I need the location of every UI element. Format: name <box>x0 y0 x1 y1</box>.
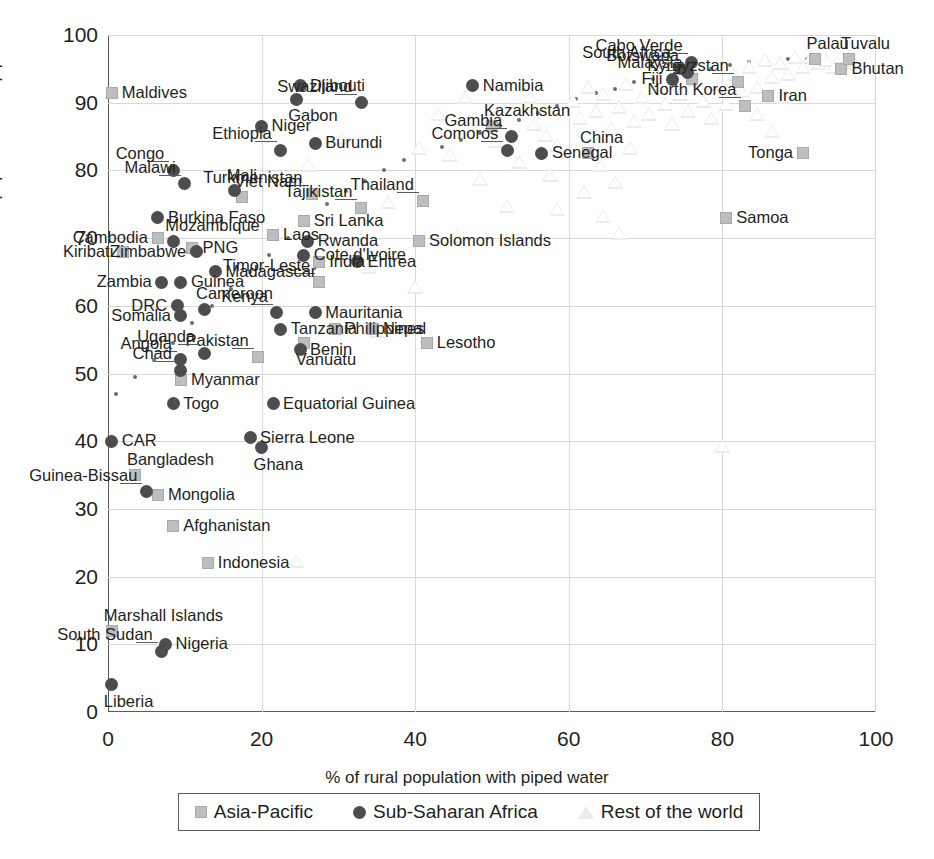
legend-item[interactable]: Rest of the world <box>578 801 744 823</box>
data-point-triangle[interactable] <box>380 195 396 209</box>
data-point-square[interactable] <box>252 351 264 363</box>
data-point-circle[interactable] <box>501 144 514 157</box>
data-point-circle[interactable] <box>105 678 118 691</box>
data-point-circle[interactable] <box>466 79 479 92</box>
y-tick-label: 30 <box>52 498 98 519</box>
data-point-triangle[interactable] <box>741 60 757 74</box>
data-point-triangle[interactable] <box>572 111 588 125</box>
data-point-triangle[interactable] <box>641 107 657 121</box>
data-point-triangle[interactable] <box>595 87 611 101</box>
legend-item[interactable]: Sub-Saharan Africa <box>353 801 538 823</box>
data-point-triangle[interactable] <box>664 117 680 131</box>
data-point-triangle[interactable] <box>607 175 623 189</box>
data-point-circle[interactable] <box>105 435 118 448</box>
data-point-triangle[interactable] <box>407 280 423 294</box>
data-point-triangle[interactable] <box>595 209 611 223</box>
data-label: Fiji <box>641 70 662 87</box>
data-point-square[interactable] <box>421 337 433 349</box>
data-point-circle[interactable] <box>290 93 303 106</box>
data-point-square[interactable] <box>762 90 774 102</box>
data-point-triangle[interactable] <box>611 100 627 114</box>
data-point-circle[interactable] <box>505 130 518 143</box>
data-label: Thailand <box>351 176 414 193</box>
data-point-square[interactable] <box>202 557 214 569</box>
data-point-square[interactable] <box>413 235 425 247</box>
y-tick-label: 40 <box>52 430 98 451</box>
data-point-triangle[interactable] <box>538 128 554 142</box>
data-point-circle[interactable] <box>274 323 287 336</box>
data-label: Swaziland <box>277 78 352 95</box>
data-point-square[interactable] <box>417 195 429 207</box>
data-point-circle[interactable] <box>155 276 168 289</box>
data-point-triangle[interactable] <box>580 80 596 94</box>
data-point-triangle[interactable] <box>411 141 427 155</box>
data-point-triangle[interactable] <box>288 554 304 568</box>
data-point-triangle[interactable] <box>764 124 780 138</box>
data-label: Niger <box>272 117 311 134</box>
data-point-square[interactable] <box>152 489 164 501</box>
x-tick-label: 20 <box>232 728 292 749</box>
legend-label: Sub-Saharan Africa <box>373 801 538 823</box>
data-point-triangle[interactable] <box>588 104 604 118</box>
data-point-circle[interactable] <box>244 431 257 444</box>
data-point-triangle[interactable] <box>549 202 565 216</box>
chart-root: % of urban population with piped water %… <box>0 0 934 859</box>
data-point-triangle[interactable] <box>680 104 696 118</box>
data-point-triangle[interactable] <box>718 97 734 111</box>
data-point-circle[interactable] <box>274 144 287 157</box>
data-point-triangle[interactable] <box>714 439 730 453</box>
data-label: Bangladesh <box>127 451 214 468</box>
data-point-square[interactable] <box>809 53 821 65</box>
data-point-triangle[interactable] <box>499 199 515 213</box>
data-point-circle[interactable] <box>174 309 187 322</box>
data-point-circle[interactable] <box>535 147 548 160</box>
data-label: Namibia <box>483 77 544 94</box>
y-tick-label: 100 <box>52 24 98 45</box>
data-point-circle[interactable] <box>190 245 203 258</box>
data-point-triangle[interactable] <box>576 185 592 199</box>
data-point-triangle[interactable] <box>764 70 780 84</box>
data-point-square[interactable] <box>167 520 179 532</box>
x-tick-label: 60 <box>539 728 599 749</box>
data-point-circle[interactable] <box>178 177 191 190</box>
data-point-triangle[interactable] <box>511 155 527 169</box>
data-point-triangle[interactable] <box>611 226 627 240</box>
data-label: PNG <box>202 239 238 256</box>
data-point-triangle[interactable] <box>457 90 473 104</box>
data-point-triangle[interactable] <box>472 172 488 186</box>
data-point-circle[interactable] <box>174 276 187 289</box>
data-point-triangle[interactable] <box>542 168 558 182</box>
data-point-circle[interactable] <box>309 137 322 150</box>
data-label: Tanzania <box>291 320 357 337</box>
data-label: CAR <box>122 432 157 449</box>
data-point-square[interactable] <box>739 100 751 112</box>
data-label: Afghanistan <box>183 517 270 534</box>
y-tick-label: 0 <box>52 701 98 722</box>
data-point-circle[interactable] <box>267 397 280 410</box>
data-point-square[interactable] <box>267 229 279 241</box>
data-point-circle[interactable] <box>151 211 164 224</box>
data-point-circle[interactable] <box>309 306 322 319</box>
data-point-circle[interactable] <box>355 96 368 109</box>
legend-item[interactable]: Asia-Pacific <box>195 801 313 823</box>
data-point-triangle[interactable] <box>780 67 796 81</box>
data-point-circle[interactable] <box>198 303 211 316</box>
data-point-circle[interactable] <box>198 347 211 360</box>
data-point-triangle[interactable] <box>626 114 642 128</box>
data-point-triangle[interactable] <box>757 53 773 67</box>
data-point-square[interactable] <box>720 212 732 224</box>
data-label: Sierra Leone <box>260 429 354 446</box>
y-tick-label: 90 <box>52 92 98 113</box>
data-point-triangle[interactable] <box>703 111 719 125</box>
data-point-triangle[interactable] <box>618 77 634 91</box>
data-label: Zambia <box>97 273 152 290</box>
data-point-triangle[interactable] <box>657 97 673 111</box>
legend-label: Asia-Pacific <box>214 801 313 823</box>
data-point-circle[interactable] <box>167 397 180 410</box>
data-point-square[interactable] <box>797 147 809 159</box>
data-point-circle[interactable] <box>270 306 283 319</box>
data-point-square[interactable] <box>106 87 118 99</box>
data-point-triangle[interactable] <box>442 148 458 162</box>
data-point-triangle[interactable] <box>622 141 638 155</box>
data-point-circle[interactable] <box>155 645 168 658</box>
